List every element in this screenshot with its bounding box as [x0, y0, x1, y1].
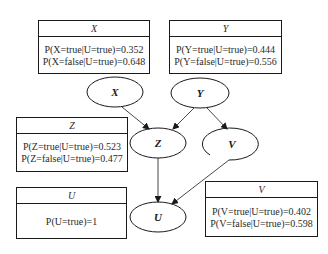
cpt-table-y: Y P(Y=true|U=true)=0.444 P(Y=false|U=tru…: [169, 20, 282, 74]
cpt-y-row-true: P(Y=true|U=true)=0.444: [176, 44, 275, 56]
bayesian-network-diagram: X Y Z V U X P(X=true|U=true)=0.352 P(X=f…: [0, 0, 328, 254]
node-v-label: V: [228, 138, 235, 150]
cpt-u-row-true: P(U=true)=1: [46, 216, 97, 228]
edge-y-z: [173, 108, 194, 129]
cpt-x-title: X: [39, 21, 149, 37]
cpt-y-title: Y: [170, 21, 281, 37]
cpt-table-z: Z P(Z=true|U=true)=0.523 P(Z=false|U=tru…: [16, 117, 128, 172]
node-u-label: U: [154, 211, 162, 223]
cpt-x-row-false: P(X=false|U=true)=0.648: [43, 56, 146, 68]
node-z-label: Z: [155, 137, 162, 149]
cpt-z-row-false: P(Z=false|U=true)=0.477: [21, 153, 122, 165]
cpt-table-x: X P(X=true|U=true)=0.352 P(X=false|U=tru…: [38, 20, 150, 74]
cpt-z-row-true: P(Z=true|U=true)=0.523: [23, 141, 121, 153]
node-x-label: X: [111, 86, 118, 98]
cpt-v-title: V: [206, 182, 317, 198]
cpt-v-row-true: P(V=true|U=true)=0.402: [212, 206, 311, 218]
edge-y-v: [207, 108, 227, 129]
node-y-label: Y: [197, 87, 204, 99]
cpt-table-u: U P(U=true)=1: [16, 187, 127, 239]
cpt-x-row-true: P(X=true|U=true)=0.352: [44, 44, 143, 56]
cpt-v-row-false: P(V=false|U=true)=0.598: [210, 218, 313, 230]
cpt-table-v: V P(V=true|U=true)=0.402 P(V=false|U=tru…: [205, 181, 318, 237]
cpt-y-row-false: P(Y=false|U=true)=0.556: [174, 56, 277, 68]
cpt-u-title: U: [17, 188, 126, 204]
cpt-z-title: Z: [17, 118, 127, 134]
